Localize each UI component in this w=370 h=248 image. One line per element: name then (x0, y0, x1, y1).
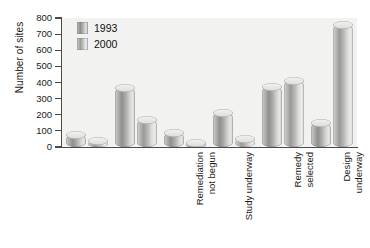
bar-cap (66, 131, 86, 139)
y-tick-mark (55, 130, 62, 131)
x-category-label: Remedy selected (292, 152, 315, 248)
legend-label-2000: 2000 (94, 39, 117, 50)
bar-cap (186, 139, 206, 147)
bar-1993-2 (164, 133, 184, 148)
bar-cap (213, 109, 233, 117)
x-category-label: Remediation not begun (194, 152, 217, 248)
y-tick-mark (55, 66, 62, 67)
y-tick-label: 700 (12, 29, 52, 39)
y-tick-label: 400 (12, 78, 52, 88)
bar-2000-4 (284, 81, 304, 147)
y-tick-label: 0 (12, 142, 52, 152)
bar-2000-3 (235, 139, 255, 147)
y-tick-mark (55, 17, 62, 18)
y-tick-label: 100 (12, 126, 52, 136)
bar-chart: Number of sites 800700600500400300200100… (0, 0, 370, 248)
x-category-label: Study underway (243, 152, 255, 248)
y-tick-mark (55, 50, 62, 51)
bar-cap (311, 119, 331, 127)
y-tick-label: 200 (12, 110, 52, 120)
bar-cap (88, 137, 108, 145)
y-tick-label: 600 (12, 45, 52, 55)
x-axis-line (61, 147, 358, 148)
legend-item-1993: 1993 (77, 22, 117, 34)
bar-1993-5 (311, 123, 331, 147)
bar-cap (137, 116, 157, 124)
y-tick-mark (55, 34, 62, 35)
bar-2000-5 (333, 25, 353, 147)
bar-2000-1 (137, 120, 157, 147)
bar-1993-1 (115, 88, 135, 147)
legend: 1993 2000 (77, 22, 117, 50)
bar-cap (333, 21, 353, 29)
legend-swatch-2000-icon (77, 38, 88, 50)
y-tick-label: 300 (12, 94, 52, 104)
bar-1993-4 (262, 87, 282, 147)
legend-label-1993: 1993 (94, 23, 117, 34)
x-category-label: Design underway (341, 152, 364, 248)
y-tick-mark (55, 146, 62, 147)
y-tick-mark (55, 98, 62, 99)
bar-cap (115, 84, 135, 92)
y-tick-mark (55, 82, 62, 83)
bar-cap (164, 129, 184, 137)
y-tick-label: 800 (12, 13, 52, 23)
legend-swatch-1993-icon (77, 22, 88, 34)
bar-cap (235, 135, 255, 143)
legend-item-2000: 2000 (77, 38, 117, 50)
bar-2000-2 (186, 143, 206, 147)
bar-1993-3 (213, 113, 233, 147)
y-axis-title: Number of sites (14, 13, 25, 103)
bar-2000-0 (88, 141, 108, 147)
y-tick-mark (55, 114, 62, 115)
bar-1993-0 (66, 135, 86, 147)
y-tick-label: 500 (12, 61, 52, 71)
bar-cap (262, 83, 282, 91)
bar-cap (284, 77, 304, 85)
